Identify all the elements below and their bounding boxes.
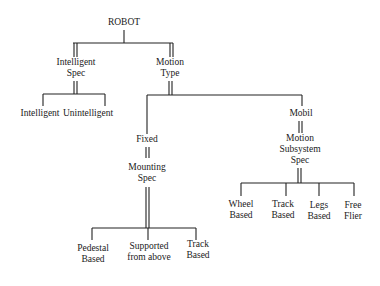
svg-text:Supported: Supported [129, 241, 168, 251]
node-intelligent-spec: Intelligent Spec [56, 57, 95, 78]
robot-taxonomy-diagram: ROBOT Intelligent Spec Intelligent Unint… [0, 0, 380, 286]
node-fixed: Fixed [136, 134, 158, 144]
svg-text:Spec: Spec [291, 155, 309, 165]
svg-text:Based: Based [271, 210, 294, 220]
svg-text:Spec: Spec [67, 68, 85, 78]
node-legs-based: Legs Based [307, 200, 330, 221]
svg-text:Based: Based [81, 254, 104, 264]
svg-text:Track: Track [187, 239, 209, 249]
node-mobil: Mobil [289, 108, 313, 118]
svg-text:Free: Free [345, 200, 362, 210]
svg-text:Subsystem: Subsystem [279, 144, 321, 154]
svg-text:Motion: Motion [156, 57, 184, 67]
svg-text:Pedestal: Pedestal [77, 243, 109, 253]
node-motion-subsystem-spec: Motion Subsystem Spec [279, 133, 321, 165]
node-supported-from-above: Supported from above [127, 241, 171, 262]
svg-text:Type: Type [161, 68, 180, 78]
svg-text:Legs: Legs [310, 200, 329, 210]
svg-text:Motion: Motion [286, 133, 314, 143]
node-pedestal-based: Pedestal Based [77, 243, 109, 264]
node-motion-type: Motion Type [156, 57, 184, 78]
svg-text:from above: from above [127, 252, 171, 262]
svg-text:Based: Based [229, 210, 252, 220]
svg-text:Based: Based [186, 250, 209, 260]
node-track-based-fixed: Track Based [186, 239, 209, 260]
node-unintelligent: Unintelligent [63, 108, 113, 118]
svg-text:Spec: Spec [138, 173, 156, 183]
svg-text:Intelligent: Intelligent [56, 57, 95, 67]
node-intelligent: Intelligent [20, 108, 59, 118]
svg-text:Wheel: Wheel [229, 199, 254, 209]
node-free-flier: Free Flier [344, 200, 363, 221]
node-robot: ROBOT [108, 17, 140, 27]
svg-text:Flier: Flier [344, 211, 363, 221]
svg-text:Mounting: Mounting [128, 162, 166, 172]
svg-text:Track: Track [272, 199, 294, 209]
svg-text:Based: Based [307, 211, 330, 221]
node-track-based-mobile: Track Based [271, 199, 294, 220]
node-wheel-based: Wheel Based [229, 199, 254, 220]
node-mounting-spec: Mounting Spec [128, 162, 166, 183]
